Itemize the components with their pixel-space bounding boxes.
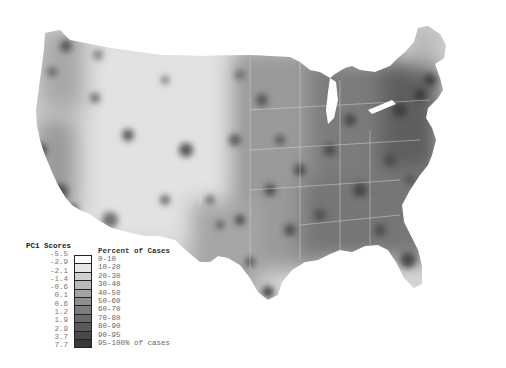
- legend-score: 2.9: [34, 325, 68, 333]
- legend-bin-label: 95-100% of cases: [98, 339, 170, 347]
- legend-score: -5.5: [34, 250, 68, 258]
- legend-score: 0.6: [34, 300, 68, 308]
- hotspot: [206, 196, 214, 204]
- hotspot: [284, 224, 296, 236]
- legend-percent-column: 0-10 10-20 20-30 30-40 40-50 50-60 60-70…: [98, 255, 170, 347]
- hotspot: [256, 94, 268, 106]
- legend-swatch: [75, 323, 91, 331]
- hotspot: [60, 40, 72, 52]
- hotspot: [424, 74, 436, 86]
- hotspot: [262, 286, 274, 298]
- california-region: [36, 120, 76, 210]
- legend-bin-label: 90-95: [98, 331, 170, 339]
- hotspot: [374, 224, 386, 236]
- legend-bin-label: 60-70: [98, 305, 170, 313]
- hotspot: [235, 70, 245, 80]
- maine-region: [410, 25, 440, 65]
- hotspot: [122, 129, 134, 141]
- hotspot: [314, 209, 326, 221]
- legend-bin-label: 30-40: [98, 280, 170, 288]
- hotspot: [275, 135, 285, 145]
- hotspot: [47, 67, 57, 77]
- hotspot: [161, 76, 169, 84]
- legend-bin-label: 80-90: [98, 322, 170, 330]
- hotspot: [400, 252, 416, 268]
- legend-bin-label: 70-80: [98, 314, 170, 322]
- legend-swatch: [75, 332, 91, 340]
- legend-score: 0.1: [34, 291, 68, 299]
- legend-swatch: [75, 273, 91, 281]
- legend-percent-title: Percent of Cases: [98, 247, 170, 255]
- legend-score: 1.9: [34, 316, 68, 324]
- hotspot: [353, 183, 367, 197]
- legend-score: 3.7: [34, 333, 68, 341]
- legend-score-column: -5.5 -2.9 -2.1 -1.4 -0.6 0.1 0.6 1.2 1.9…: [34, 250, 68, 350]
- hotspot: [179, 143, 193, 157]
- hotspot: [90, 93, 100, 103]
- legend-bin-label: 0-10: [98, 255, 170, 263]
- hotspot: [235, 215, 245, 225]
- hotspot: [405, 175, 415, 185]
- legend-swatch: [75, 256, 91, 264]
- hotspot: [393, 103, 407, 117]
- legend-bin-label: 40-50: [98, 289, 170, 297]
- hotspot: [160, 195, 170, 205]
- legend-score: 7.7: [34, 341, 68, 349]
- hotspot: [384, 154, 396, 166]
- legend-swatch-column: [74, 255, 92, 348]
- legend-swatch: [75, 306, 91, 314]
- legend-scores-title: PC1 Scores: [26, 242, 71, 250]
- legend-swatch: [75, 281, 91, 289]
- hotspot: [264, 184, 276, 196]
- legend-score: -0.6: [34, 283, 68, 291]
- legend-swatch: [75, 340, 91, 347]
- hotspot: [93, 50, 103, 60]
- hotspot: [216, 221, 224, 229]
- legend-score: -2.1: [34, 267, 68, 275]
- hotspot: [52, 184, 68, 200]
- hotspot: [33, 143, 47, 157]
- hotspot: [229, 134, 241, 146]
- legend-swatch: [75, 315, 91, 323]
- legend-swatch: [75, 290, 91, 298]
- hotspot: [344, 114, 356, 126]
- legend-bin-label: 50-60: [98, 297, 170, 305]
- legend-score: -2.9: [34, 258, 68, 266]
- legend-swatch: [75, 264, 91, 272]
- legend: PC1 Scores Percent of Cases -5.5 -2.9 -2…: [26, 242, 216, 366]
- legend-bin-label: 10-20: [98, 263, 170, 271]
- legend-swatch: [75, 298, 91, 306]
- hotspot: [66, 204, 78, 216]
- hotspot: [414, 89, 426, 101]
- legend-score: 1.2: [34, 308, 68, 316]
- legend-bin-label: 20-30: [98, 272, 170, 280]
- hotspot: [102, 212, 118, 228]
- legend-score: -1.4: [34, 275, 68, 283]
